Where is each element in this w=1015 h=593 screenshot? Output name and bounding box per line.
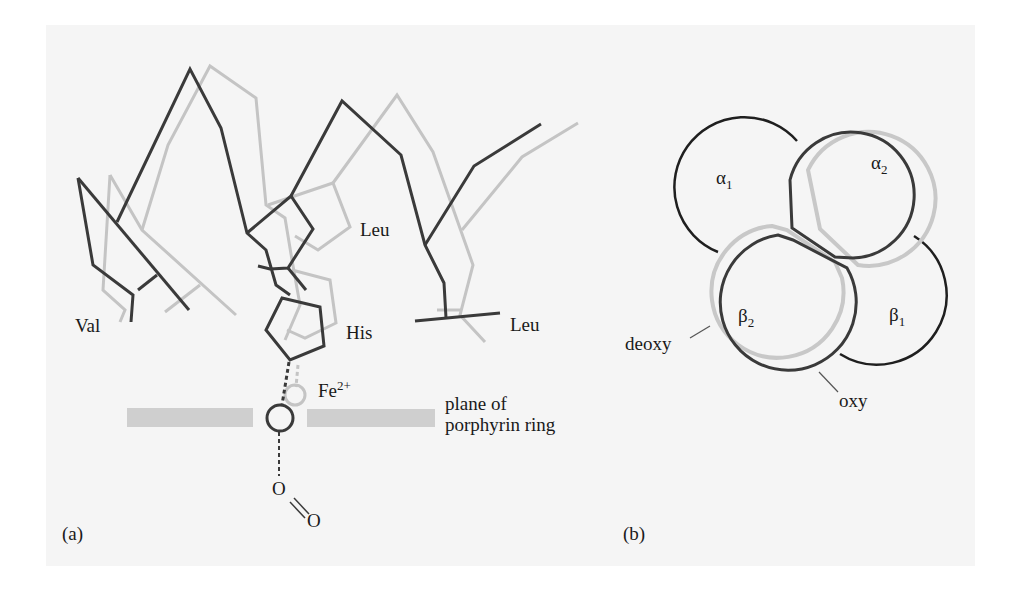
deoxy-leu-right <box>462 123 578 230</box>
panel-a-label: (a) <box>62 523 83 545</box>
oxy-chain-left-2 <box>78 178 189 310</box>
label-oxygen-2: O <box>307 510 321 531</box>
oxy-backbone <box>78 69 541 518</box>
oxy-iron-atom <box>267 405 293 431</box>
oxy-val-branch <box>138 275 157 290</box>
deoxy-leader-line <box>690 326 710 338</box>
porphyrin-plane-right <box>307 409 435 427</box>
subunit-alpha1-outline <box>674 117 797 252</box>
subunit-beta2-oxy <box>720 235 856 370</box>
deoxy-iron-atom <box>285 385 305 405</box>
label-plane-line2: porphyrin ring <box>445 414 556 435</box>
porphyrin-plane-left <box>127 408 253 427</box>
label-iron: Fe2+ <box>318 378 351 401</box>
deoxy-upper-ring-2 <box>333 95 485 342</box>
his-imidazole-ring <box>266 298 324 360</box>
label-leu-upper: Leu <box>360 219 390 240</box>
label-oxygen-1: O <box>272 478 286 499</box>
oxy-leu-right <box>425 124 541 245</box>
label-oxy: oxy <box>839 390 868 411</box>
label-val: Val <box>75 315 100 336</box>
o-o-double-bond-1 <box>290 502 305 518</box>
label-plane-line1: plane of <box>445 393 507 414</box>
panel-a: Val Leu His Leu Fe2+ plane of porphyrin … <box>62 66 578 545</box>
subunit-alpha2-oxy <box>790 132 914 258</box>
panel-b: α1 α2 β2 β1 deoxy oxy (b) <box>623 117 947 545</box>
hemoglobin-figure: Val Leu His Leu Fe2+ plane of porphyrin … <box>0 0 1015 593</box>
label-beta1: β1 <box>889 304 905 329</box>
panel-b-label: (b) <box>623 523 645 545</box>
label-beta2: β2 <box>738 305 754 330</box>
oxy-leader-line <box>819 372 838 392</box>
label-deoxy: deoxy <box>625 333 672 354</box>
deoxy-backbone <box>103 66 578 405</box>
label-alpha1: α1 <box>716 167 732 192</box>
oxy-leu-bar <box>415 313 500 321</box>
label-alpha2: α2 <box>871 152 887 177</box>
oxy-ring-upper <box>247 196 313 269</box>
label-his: His <box>346 322 372 343</box>
label-leu-lower: Leu <box>510 314 540 335</box>
